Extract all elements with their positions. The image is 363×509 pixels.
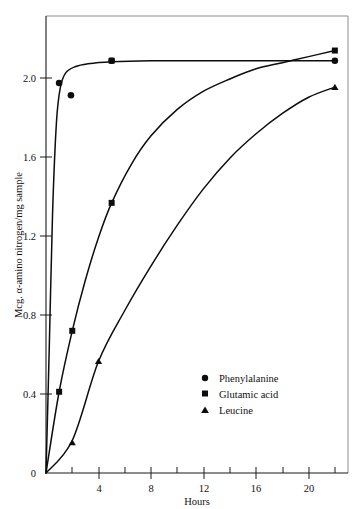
y-tick-label-0-8: 0.8: [23, 310, 36, 321]
y-tick-label-1-2: 1.2: [23, 231, 36, 242]
square-data-point: [109, 58, 115, 64]
triangle-data-point: [69, 439, 76, 445]
circle-data-point: [68, 92, 75, 99]
series-leucine: [46, 84, 338, 473]
square-marker-icon: [202, 391, 208, 397]
curve-line: [46, 51, 335, 473]
curve-line: [46, 87, 335, 473]
legend-entry-phenylalanine: Phenylalanine: [202, 373, 279, 384]
chart-legend: Phenylalanine Glutamic acid Leucine: [201, 373, 279, 416]
square-data-point: [69, 328, 75, 334]
legend-label-phenylalanine: Phenylalanine: [219, 373, 279, 384]
x-axis-title: Hours: [184, 496, 210, 507]
y-tick-label-0-4: 0.4: [23, 389, 37, 400]
plot-frame: [46, 16, 348, 473]
x-tick-label-8: 8: [148, 483, 153, 494]
triangle-marker-icon: [201, 406, 209, 413]
series-layer: [46, 48, 338, 473]
legend-entry-glutamic-acid: Glutamic acid: [202, 389, 279, 400]
y-axis-tick-labels: 2.0 1.6 1.2 0.8 0.4 0: [23, 73, 37, 479]
triangle-data-point: [331, 84, 338, 90]
circle-marker-icon: [202, 375, 208, 381]
square-data-point: [56, 389, 62, 395]
circle-data-point: [332, 57, 339, 64]
x-tick-label-4: 4: [96, 483, 102, 494]
y-tick-label-1-6: 1.6: [23, 152, 36, 163]
legend-label-leucine: Leucine: [219, 405, 253, 416]
legend-entry-leucine: Leucine: [201, 405, 253, 416]
chart-figure: 2.0 1.6 1.2 0.8 0.4 0 4 8 12 16: [0, 0, 363, 509]
x-tick-label-20: 20: [304, 483, 315, 494]
x-tick-label-12: 12: [199, 483, 210, 494]
y-tick-label-0: 0: [31, 468, 36, 479]
plot-axes: [46, 16, 348, 473]
series-glutamic-acid: [46, 48, 338, 473]
x-axis-tick-labels: 4 8 12 16 20: [96, 483, 314, 494]
triangle-data-point: [95, 358, 102, 364]
y-tick-label-2-0: 2.0: [23, 73, 36, 84]
legend-label-glutamic-acid: Glutamic acid: [219, 389, 279, 400]
y-axis-title: Mcg. α-amino nitrogen/mg sample: [13, 172, 24, 318]
square-data-point: [332, 48, 338, 54]
x-tick-label-16: 16: [251, 483, 262, 494]
square-data-point: [109, 200, 115, 206]
line-chart-canvas: 2.0 1.6 1.2 0.8 0.4 0 4 8 12 16: [0, 0, 363, 509]
circle-data-point: [56, 80, 63, 87]
